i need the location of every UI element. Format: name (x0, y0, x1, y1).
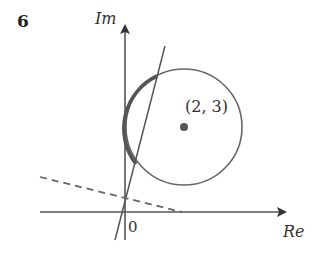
argand-diagram: (2, 3) Im Re 0 (0, 0, 324, 276)
center-label: (2, 3) (185, 97, 228, 116)
highlighted-arc (124, 76, 157, 164)
real-axis-label: Re (282, 222, 305, 241)
imaginary-axis-label: Im (94, 9, 117, 28)
origin-label: 0 (128, 218, 138, 236)
locus-line (115, 46, 165, 240)
center-point (180, 123, 188, 131)
dashed-line (40, 177, 182, 212)
